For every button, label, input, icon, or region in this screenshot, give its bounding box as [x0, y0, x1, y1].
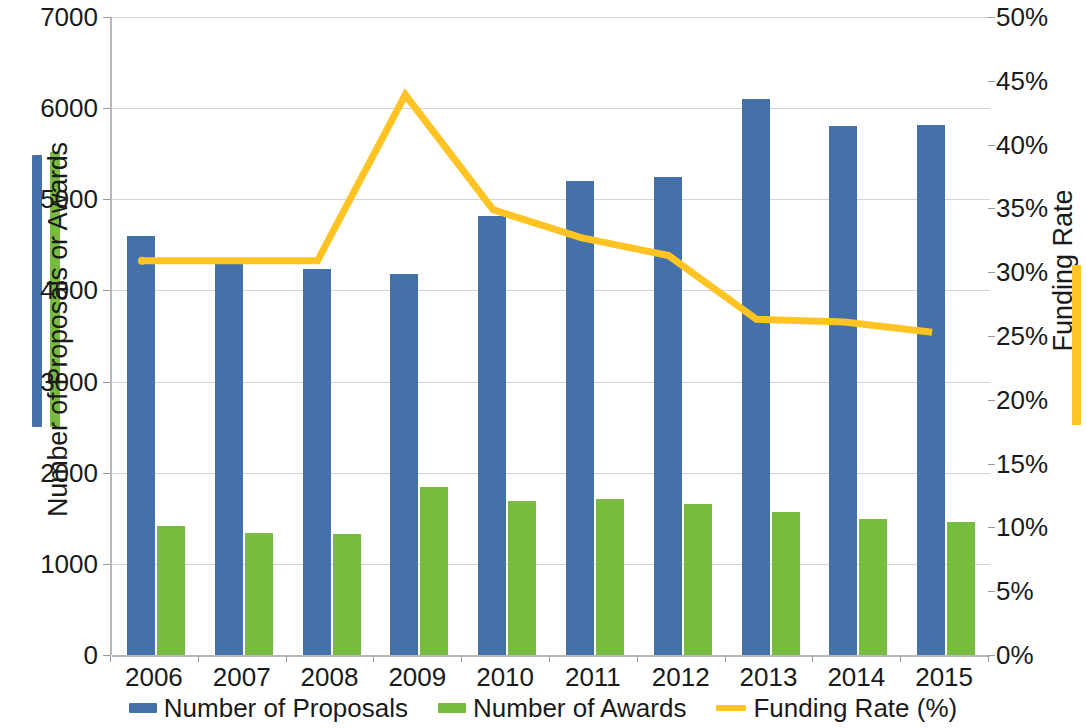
- axis-baseline: [112, 655, 990, 657]
- y-right-tickmark: [988, 208, 995, 209]
- x-tickmark: [812, 655, 813, 662]
- bar-proposals-2009: [390, 274, 418, 655]
- bar-awards-2013: [772, 512, 800, 655]
- y-right-tickmark: [988, 81, 995, 82]
- x-tick-label-2008: 2008: [290, 662, 370, 693]
- bar-awards-2009: [420, 487, 448, 655]
- bar-awards-2015: [947, 522, 975, 655]
- chart-legend: Number of ProposalsNumber of AwardsFundi…: [0, 690, 1086, 726]
- bar-proposals-2008: [303, 269, 331, 655]
- x-tickmark: [900, 655, 901, 662]
- y-left-tickmark: [103, 290, 110, 291]
- gridline: [112, 564, 990, 565]
- bar-awards-2011: [596, 499, 624, 655]
- y-left-tick-6000: 6000: [0, 95, 98, 121]
- x-tick-label-2006: 2006: [114, 662, 194, 693]
- x-tick-label-2015: 2015: [904, 662, 984, 693]
- y-right-tickmark: [988, 527, 995, 528]
- x-tick-label-2012: 2012: [641, 662, 721, 693]
- gridline: [112, 17, 990, 18]
- bar-proposals-2011: [566, 181, 594, 655]
- x-tickmark: [461, 655, 462, 662]
- funding-rate-color-swatch-icon: [1072, 265, 1081, 425]
- legend-item-2[interactable]: Funding Rate (%): [716, 693, 957, 724]
- y-left-tick-0: 0: [0, 642, 98, 668]
- y-right-tickmark: [988, 591, 995, 592]
- funding-chart: Number of Proposals or Awards Funding Ra…: [0, 0, 1086, 728]
- legend-swatch-icon-2: [716, 705, 746, 711]
- y-right-tickmark: [988, 400, 995, 401]
- y-left-tick-5000: 5000: [0, 186, 98, 212]
- legend-swatch-icon-1: [438, 703, 466, 713]
- legend-swatch-icon-0: [129, 703, 157, 713]
- y-right-tick-35pct: 35%: [996, 195, 1048, 221]
- y-right-tickmark: [988, 655, 995, 656]
- y-right-tick-25pct: 25%: [996, 323, 1048, 349]
- y-left-tick-4000: 4000: [0, 277, 98, 303]
- bar-proposals-2006: [127, 236, 155, 655]
- y-right-tick-30pct: 30%: [996, 259, 1048, 285]
- y-right-tick-0pct: 0%: [996, 642, 1034, 668]
- x-tick-label-2013: 2013: [729, 662, 809, 693]
- bar-proposals-2014: [829, 126, 857, 655]
- bar-proposals-2015: [917, 125, 945, 655]
- bar-proposals-2013: [742, 99, 770, 655]
- y-right-tick-20pct: 20%: [996, 387, 1048, 413]
- x-tickmark: [286, 655, 287, 662]
- bar-awards-2012: [684, 504, 712, 655]
- y-right-tick-5pct: 5%: [996, 578, 1034, 604]
- legend-label-2: Funding Rate (%): [753, 693, 957, 724]
- x-tick-label-2010: 2010: [465, 662, 545, 693]
- x-tick-label-2014: 2014: [816, 662, 896, 693]
- y-left-tick-3000: 3000: [0, 369, 98, 395]
- bar-awards-2006: [157, 526, 185, 655]
- bar-awards-2014: [859, 519, 887, 655]
- bar-proposals-2010: [478, 216, 506, 655]
- bar-awards-2008: [333, 534, 361, 655]
- x-tick-label-2007: 2007: [202, 662, 282, 693]
- y-left-tickmark: [103, 655, 110, 656]
- y-axis-left-title: Number of Proposals or Awards: [43, 50, 74, 610]
- y-left-tick-7000: 7000: [0, 4, 98, 30]
- y-left-tickmark: [103, 199, 110, 200]
- gridline: [112, 473, 990, 474]
- gridline: [112, 290, 990, 291]
- x-tick-label-2009: 2009: [377, 662, 457, 693]
- plot-area: [110, 17, 990, 655]
- x-tickmark: [110, 655, 111, 662]
- funding-rate-line-series: [112, 17, 990, 655]
- y-right-tickmark: [988, 272, 995, 273]
- x-tickmark: [637, 655, 638, 662]
- y-right-tick-10pct: 10%: [996, 514, 1048, 540]
- bar-awards-2010: [508, 501, 536, 655]
- y-right-tickmark: [988, 145, 995, 146]
- y-right-tickmark: [988, 336, 995, 337]
- bar-proposals-2012: [654, 177, 682, 656]
- x-tickmark: [373, 655, 374, 662]
- y-left-tickmark: [103, 382, 110, 383]
- bar-awards-2007: [245, 533, 273, 655]
- legend-label-1: Number of Awards: [473, 693, 686, 724]
- y-right-tickmark: [988, 17, 995, 18]
- y-left-tick-2000: 2000: [0, 460, 98, 486]
- y-right-tick-15pct: 15%: [996, 451, 1048, 477]
- y-right-tick-50pct: 50%: [996, 4, 1048, 30]
- y-left-tickmark: [103, 473, 110, 474]
- y-left-tickmark: [103, 564, 110, 565]
- y-right-tick-45pct: 45%: [996, 68, 1048, 94]
- legend-item-1[interactable]: Number of Awards: [438, 693, 686, 724]
- funding-rate-line: [142, 95, 932, 332]
- x-tickmark: [549, 655, 550, 662]
- legend-item-0[interactable]: Number of Proposals: [129, 693, 408, 724]
- gridline: [112, 108, 990, 109]
- x-tickmark: [988, 655, 989, 662]
- y-right-tick-40pct: 40%: [996, 132, 1048, 158]
- x-tick-label-2011: 2011: [553, 662, 633, 693]
- gridline: [112, 199, 990, 200]
- y-left-tickmark: [103, 17, 110, 18]
- y-left-tickmark: [103, 108, 110, 109]
- x-tickmark: [725, 655, 726, 662]
- y-left-tick-1000: 1000: [0, 551, 98, 577]
- legend-label-0: Number of Proposals: [164, 693, 408, 724]
- gridline: [112, 382, 990, 383]
